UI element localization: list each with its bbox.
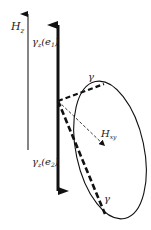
gamma-z-e2-label: γz(e2) [32,156,59,168]
hxy-label: Hxy [100,128,117,141]
gamma-top-label: γ [88,71,94,82]
gamma-vector-bottom [58,101,105,214]
hz-label: Hz [10,20,25,35]
gamma-z-e1-label: γz(e1) [32,36,59,48]
hxy-arrow [58,101,105,146]
gamma-bottom-label: γ [104,193,110,204]
gamma-vector-top [58,84,104,101]
gamma-precession-diagram: Hz γz(e1) γz(e2) γ Hxy γ [0,0,151,230]
